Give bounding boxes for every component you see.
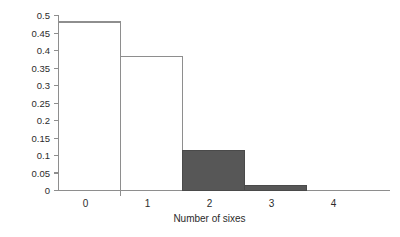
y-tick-label: 0.35 bbox=[32, 63, 51, 74]
bar-1[interactable] bbox=[121, 56, 183, 190]
y-tick-label: 0.25 bbox=[32, 98, 51, 109]
x-tick-label: 4 bbox=[331, 198, 337, 209]
x-tick-label: 0 bbox=[83, 198, 89, 209]
y-tick-label: 0.5 bbox=[37, 10, 50, 21]
y-tick-label: 0 bbox=[45, 185, 50, 196]
y-tick-label: 0.05 bbox=[32, 168, 51, 179]
y-tick-label: 0.1 bbox=[37, 150, 50, 161]
x-tick-label: 3 bbox=[269, 198, 275, 209]
x-axis-title: Number of sixes bbox=[173, 213, 245, 224]
bar-0[interactable] bbox=[59, 22, 121, 190]
bar-3[interactable] bbox=[245, 185, 307, 190]
x-tick-label: 1 bbox=[145, 198, 151, 209]
y-tick-label: 0.3 bbox=[37, 80, 50, 91]
chart-figure: 0 0.05 0.1 0.15 0.2 0.25 0.3 0.35 0.4 0.… bbox=[0, 0, 400, 237]
y-tick-label: 0.45 bbox=[32, 28, 51, 39]
y-tick-labels: 0 0.05 0.1 0.15 0.2 0.25 0.3 0.35 0.4 0.… bbox=[32, 10, 51, 196]
bar-2[interactable] bbox=[183, 150, 245, 191]
x-tick-labels: 0 1 2 3 4 bbox=[83, 198, 337, 209]
x-tick-label: 2 bbox=[207, 198, 213, 209]
y-tick-label: 0.15 bbox=[32, 133, 51, 144]
bars-group bbox=[59, 22, 307, 190]
y-tick-label: 0.2 bbox=[37, 115, 50, 126]
histogram-plot: 0 0.05 0.1 0.15 0.2 0.25 0.3 0.35 0.4 0.… bbox=[0, 0, 400, 237]
y-tick-marks bbox=[54, 16, 59, 191]
y-tick-label: 0.4 bbox=[37, 45, 50, 56]
